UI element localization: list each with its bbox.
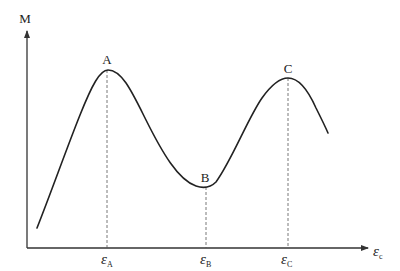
y-axis-label: M — [19, 11, 31, 26]
tick-label-a: εA — [101, 251, 113, 269]
tick-label-b: εB — [200, 251, 211, 269]
tick-c-subscript: C — [287, 260, 292, 269]
tick-label-c: εC — [281, 251, 292, 269]
x-axis-label: εc — [373, 243, 383, 261]
tick-b-subscript: B — [206, 260, 211, 269]
tick-a-subscript: A — [107, 260, 113, 269]
x-axis-label-subscript: c — [379, 252, 383, 261]
point-label-b: B — [201, 170, 210, 185]
moment-curve — [37, 70, 328, 228]
diagram-canvas: M εc A B C εA εB εC — [0, 0, 400, 271]
point-label-c: C — [284, 61, 293, 76]
point-label-a: A — [102, 52, 112, 67]
